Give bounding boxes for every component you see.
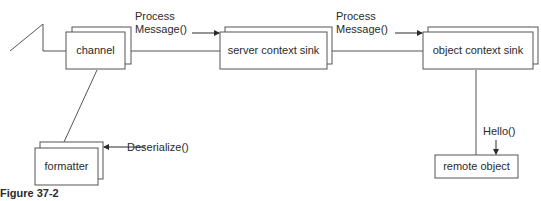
process-message-label-2-line1: Process [336,10,376,23]
process-message-label-1-line1: Process [135,10,175,23]
remote-object-label: remote object [435,155,518,178]
process-message-label-2-line2: Message() [336,23,388,36]
channel-formatter-connector [64,70,97,142]
channel-label: channel [66,32,125,69]
figure-caption: Figure 37-2 [0,187,59,199]
server-context-sink-label: server context sink [220,32,327,69]
deserialize-label: Deserialize() [127,141,189,154]
hello-label: Hello() [483,125,515,138]
formatter-label: formatter [35,148,98,185]
object-context-sink-label: object context sink [423,32,533,69]
network-line [10,24,66,51]
process-message-label-1-line2: Message() [135,23,187,36]
